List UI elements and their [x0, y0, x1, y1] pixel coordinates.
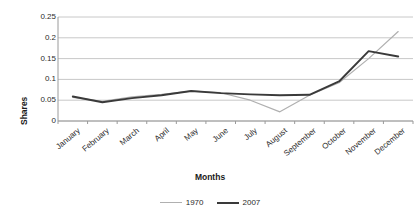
legend-swatch-icon [160, 202, 182, 203]
x-axis-tick-labels: JanuaryFebruaryMarchAprilMayJuneJulyAugu… [0, 0, 420, 220]
chart-legend: 19702007 [0, 198, 420, 207]
line-chart: Shares 00.050.10.150.20.25 JanuaryFebrua… [0, 0, 420, 220]
legend-entry-1970[interactable]: 1970 [160, 198, 204, 207]
legend-entry-2007[interactable]: 2007 [217, 198, 261, 207]
x-axis-tick-label: January [30, 126, 82, 171]
x-axis-title: Months [0, 172, 420, 182]
legend-label: 1970 [186, 198, 204, 207]
legend-swatch-icon [217, 202, 239, 204]
legend-label: 2007 [243, 198, 261, 207]
